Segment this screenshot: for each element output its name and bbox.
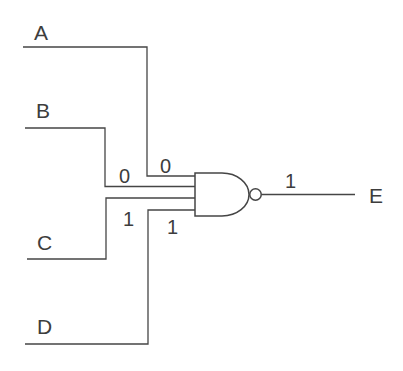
input-label-a: A (34, 21, 48, 44)
output-label-e: E (369, 184, 383, 207)
input-value-d: 1 (167, 216, 178, 238)
nand-gate-icon (195, 173, 261, 216)
inversion-bubble-icon (250, 189, 262, 201)
input-label-b: B (36, 99, 50, 122)
input-value-c: 1 (123, 208, 134, 230)
output-value-e: 1 (285, 170, 296, 192)
circuit-diagram: A B C D 0 0 1 1 1 E (0, 0, 403, 371)
and-gate-body (195, 173, 249, 216)
input-value-a: 0 (160, 155, 171, 177)
input-label-d: D (37, 315, 52, 338)
input-label-c: C (37, 231, 52, 254)
nand-circuit-svg: A B C D 0 0 1 1 1 E (0, 0, 403, 371)
input-value-b: 0 (119, 165, 130, 187)
